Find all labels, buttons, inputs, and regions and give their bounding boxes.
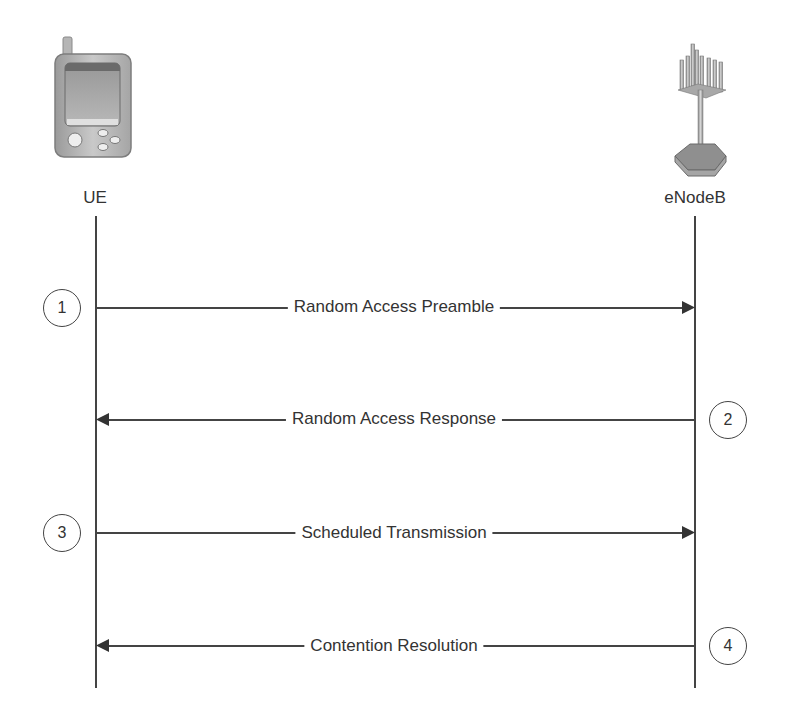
mobile-phone-icon xyxy=(50,36,140,161)
step-4-badge: 4 xyxy=(709,627,747,665)
step-2-badge: 2 xyxy=(709,401,747,439)
message-label: Random Access Response xyxy=(286,409,502,429)
ue-lifeline xyxy=(95,216,97,688)
ue-entity xyxy=(50,36,140,196)
enodeb-label: eNodeB xyxy=(635,188,755,208)
ue-label: UE xyxy=(35,188,155,208)
arrow-right-icon xyxy=(682,526,695,539)
message-label: Contention Resolution xyxy=(304,636,483,656)
step-1-badge: 1 xyxy=(43,289,81,327)
message-label: Scheduled Transmission xyxy=(295,523,492,543)
enodeb-lifeline xyxy=(694,216,696,688)
arrow-left-icon xyxy=(96,413,109,426)
antenna-tower-icon xyxy=(660,38,740,188)
message-label: Random Access Preamble xyxy=(288,297,500,317)
enodeb-entity xyxy=(660,38,740,188)
arrow-right-icon xyxy=(682,301,695,314)
arrow-left-icon xyxy=(96,639,109,652)
step-3-badge: 3 xyxy=(43,514,81,552)
